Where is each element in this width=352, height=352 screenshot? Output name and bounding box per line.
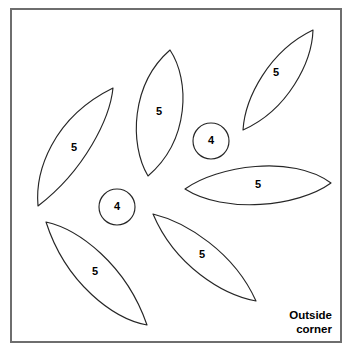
- caption-line-outside: Outside: [289, 309, 332, 321]
- upper-circle-label: 4: [208, 134, 215, 146]
- bottom-left-petal-label: 5: [92, 265, 98, 277]
- diagram-root: 55555544 Outside corner: [0, 0, 352, 352]
- outside-corner-diagram: 55555544 Outside corner: [0, 0, 352, 352]
- lower-circle-label: 4: [114, 200, 121, 212]
- top-middle-petal-label: 5: [156, 105, 162, 117]
- right-petal-label: 5: [255, 178, 261, 190]
- bottom-right-petal-label: 5: [199, 248, 205, 260]
- upper-circle: 4: [193, 123, 229, 159]
- left-petal-label: 5: [71, 141, 77, 153]
- caption-line-corner: corner: [296, 323, 332, 335]
- top-right-petal-label: 5: [273, 66, 279, 78]
- lower-circle: 4: [99, 189, 135, 225]
